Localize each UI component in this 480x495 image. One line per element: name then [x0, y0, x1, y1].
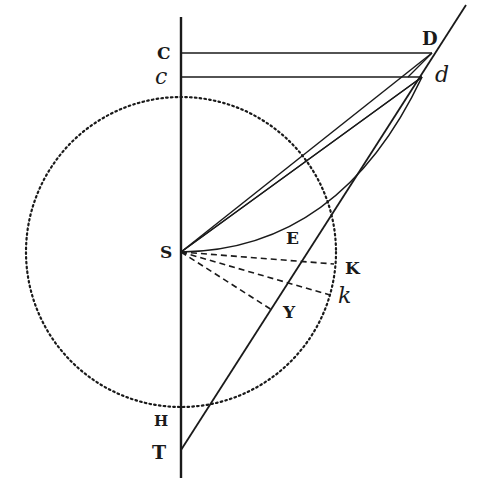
- line-d-chord: [181, 77, 422, 252]
- label-D: D: [422, 28, 438, 49]
- line-SD: [181, 53, 432, 252]
- label-E: E: [286, 228, 299, 248]
- label-d: d: [435, 62, 449, 87]
- label-c: c: [155, 64, 167, 89]
- label-C: C: [157, 43, 171, 63]
- orbit-diagram: C c D d S E K k Y H T: [0, 0, 480, 495]
- label-K: K: [345, 258, 361, 278]
- label-k: k: [338, 283, 351, 308]
- label-H: H: [154, 412, 168, 430]
- label-S: S: [160, 242, 172, 262]
- tangent-line-T: [181, 5, 466, 450]
- label-T: T: [152, 441, 166, 463]
- label-Y: Y: [282, 302, 296, 322]
- dashed-line-SY: [181, 252, 272, 310]
